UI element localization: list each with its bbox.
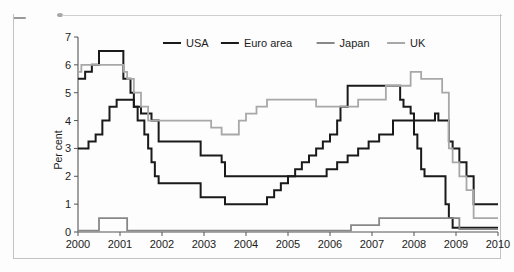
y-tick-label: 2 bbox=[65, 170, 71, 182]
y-tick-label: 6 bbox=[65, 59, 71, 71]
x-tick-label: 2004 bbox=[234, 238, 258, 250]
legend-label-euro-area: Euro area bbox=[244, 37, 293, 49]
series-line-usa bbox=[78, 51, 498, 228]
y-tick-label: 0 bbox=[65, 226, 71, 238]
x-tick-label: 2010 bbox=[486, 238, 510, 250]
series-line-uk bbox=[78, 65, 498, 218]
x-tick-label: 2005 bbox=[276, 238, 300, 250]
y-axis-ticks bbox=[74, 37, 78, 232]
x-tick-label: 2009 bbox=[444, 238, 468, 250]
x-tick-label: 2008 bbox=[402, 238, 426, 250]
y-axis-title: Per cent bbox=[52, 130, 64, 169]
x-tick-label: 2007 bbox=[360, 238, 384, 250]
y-tick-label: 1 bbox=[65, 198, 71, 210]
chart-svg: 01234567 2000200120022003200420052006200… bbox=[0, 0, 514, 272]
x-axis-tick-labels: 2000200120022003200420052006200720082009… bbox=[66, 238, 510, 250]
x-axis-ticks bbox=[78, 232, 498, 236]
line-chart: 01234567 2000200120022003200420052006200… bbox=[0, 0, 514, 272]
x-tick-label: 2000 bbox=[66, 238, 90, 250]
y-tick-label: 5 bbox=[65, 87, 71, 99]
legend-label-uk: UK bbox=[410, 37, 426, 49]
legend-label-japan: Japan bbox=[340, 37, 370, 49]
y-tick-label: 7 bbox=[65, 31, 71, 43]
y-tick-label: 4 bbox=[65, 115, 71, 127]
chart-legend: USAEuro areaJapanUK bbox=[163, 37, 426, 49]
series-group bbox=[78, 51, 498, 231]
series-line-euro-area bbox=[78, 100, 498, 204]
legend-label-usa: USA bbox=[186, 37, 209, 49]
y-axis-tick-labels: 01234567 bbox=[65, 31, 71, 238]
y-tick-label: 3 bbox=[65, 142, 71, 154]
x-tick-label: 2006 bbox=[318, 238, 342, 250]
series-line-japan bbox=[78, 218, 498, 231]
x-tick-label: 2001 bbox=[108, 238, 132, 250]
scanned-page: 01234567 2000200120022003200420052006200… bbox=[0, 0, 514, 272]
x-tick-label: 2002 bbox=[150, 238, 174, 250]
x-tick-label: 2003 bbox=[192, 238, 216, 250]
